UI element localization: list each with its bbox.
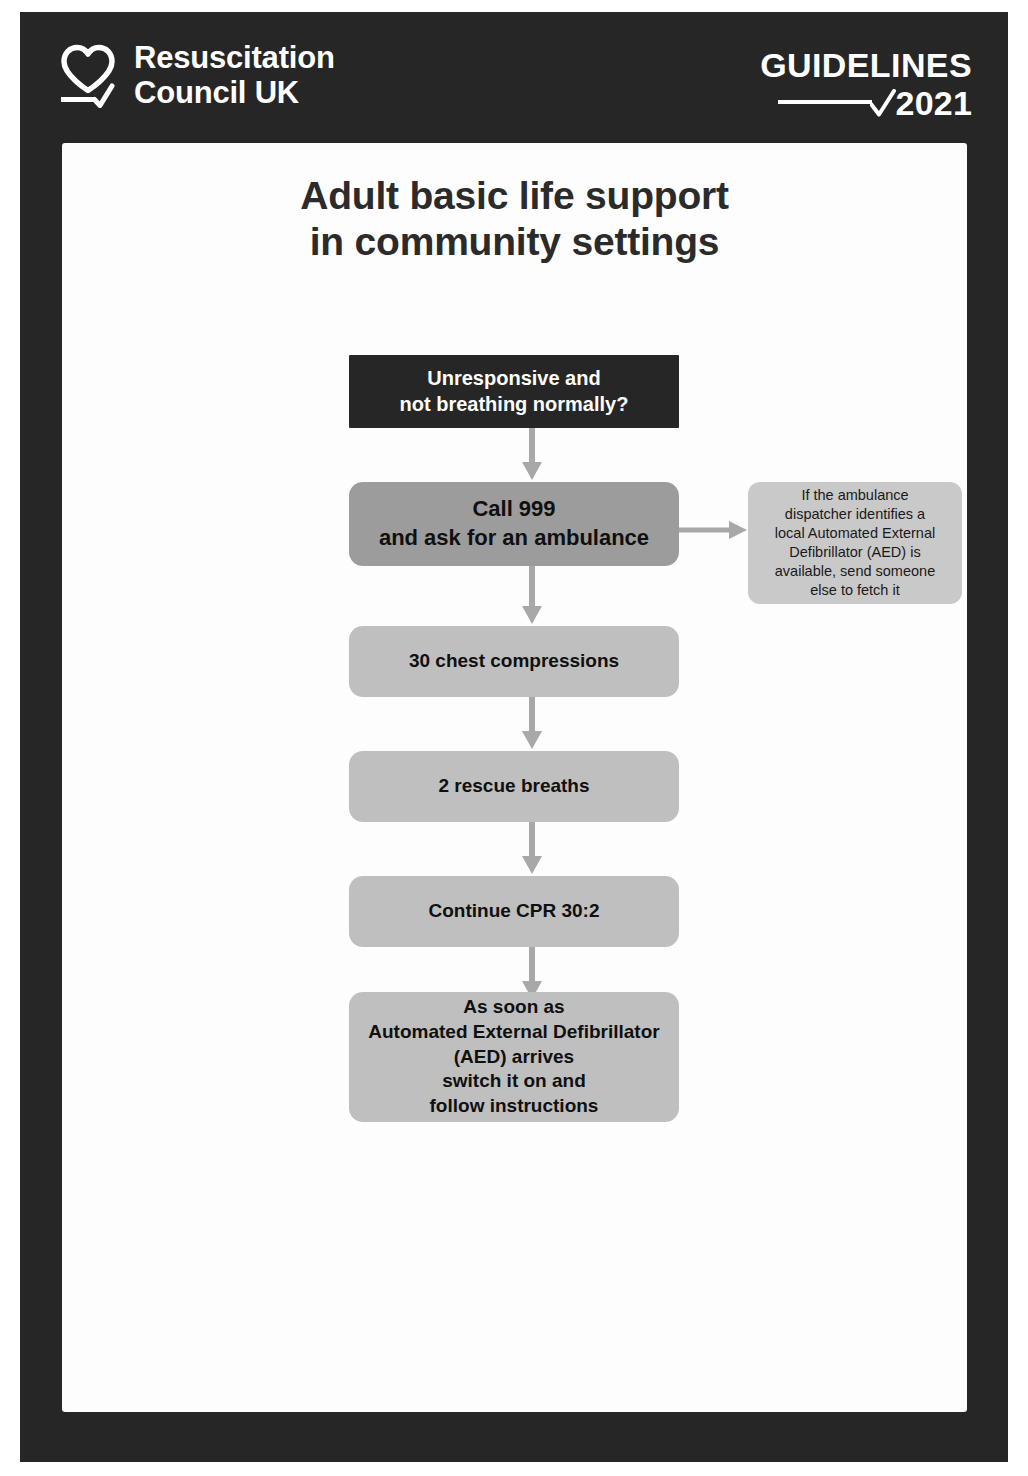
brand-lockup: Resuscitation Council UK — [58, 40, 335, 110]
connector-call-to-compressions — [519, 566, 545, 626]
flow-node-continue-cpr: Continue CPR 30:2 — [349, 876, 679, 947]
poster-frame: Resuscitation Council UK GUIDELINES 2021… — [20, 12, 1008, 1462]
guidelines-badge: GUIDELINES 2021 — [760, 48, 972, 120]
connector-compressions-to-breaths — [519, 697, 545, 751]
flow-node-chest-compressions: 30 chest compressions — [349, 626, 679, 697]
flow-node-call-999: Call 999 and ask for an ambulance — [349, 482, 679, 566]
heart-check-icon — [58, 42, 120, 108]
flow-node-rescue-breaths: 2 rescue breaths — [349, 751, 679, 822]
guidelines-year-row: 2021 — [760, 86, 972, 120]
connector-assess-to-call — [519, 428, 545, 482]
poster-page: Adult basic life support in community se… — [62, 143, 967, 1412]
flow-node-assess: Unresponsive and not breathing normally? — [349, 355, 679, 428]
flow-node-aed-arrives: As soon as Automated External Defibrilla… — [349, 992, 679, 1122]
header: Resuscitation Council UK GUIDELINES 2021 — [20, 12, 1008, 143]
connector-breaths-to-cpr — [519, 822, 545, 876]
flowchart: Unresponsive and not breathing normally?… — [62, 143, 967, 1412]
brand-name: Resuscitation Council UK — [134, 40, 335, 110]
connector-call-to-note — [679, 519, 751, 541]
guidelines-year: 2021 — [896, 86, 972, 120]
poster: Resuscitation Council UK GUIDELINES 2021… — [0, 0, 1028, 1476]
flow-note-aed-dispatch: If the ambulance dispatcher identifies a… — [748, 482, 962, 604]
check-tick-icon — [870, 89, 896, 117]
guidelines-label: GUIDELINES — [760, 48, 972, 82]
guidelines-rule — [778, 100, 872, 104]
